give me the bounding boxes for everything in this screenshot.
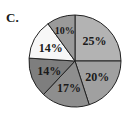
slice-label: 20% xyxy=(85,70,109,84)
slice-label: 10% xyxy=(55,25,75,36)
slice-label: 14% xyxy=(37,64,61,78)
slice-label: 25% xyxy=(83,34,107,48)
slice-label: 17% xyxy=(57,81,81,95)
slice-label: 14% xyxy=(39,41,63,55)
pie-chart: 25%20%17%14%14%10% xyxy=(0,0,127,116)
